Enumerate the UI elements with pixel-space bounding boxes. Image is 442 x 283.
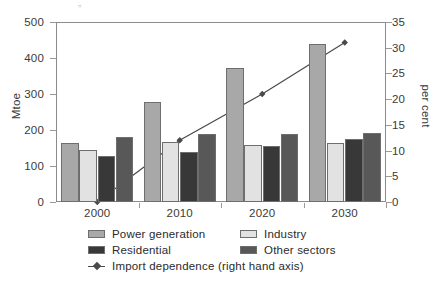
bar-residential-2030: [345, 139, 363, 202]
y-axis-left-title: Mtoe: [10, 76, 22, 136]
x-axis-tickmark: [139, 203, 140, 208]
legend-label: Industry: [264, 228, 307, 240]
y-axis-right-tick-label: 5: [392, 170, 399, 182]
y-axis-right-tickmark: [386, 202, 392, 203]
bar-industry-2020: [244, 145, 262, 202]
y-axis-right-tickmark: [386, 99, 392, 100]
y-axis-left-tick-label: 500: [24, 16, 44, 28]
y-axis-left-tick-label: 100: [24, 160, 44, 172]
y-axis-left-tick-label: 200: [24, 124, 44, 136]
y-axis-left-tickmark: [50, 202, 56, 203]
y-axis-right-tickmark: [386, 176, 392, 177]
y-axis-right-tickmark: [386, 22, 392, 23]
y-axis-right-tickmark: [386, 151, 392, 152]
bar-industry-2000: [79, 150, 97, 202]
y-axis-left-tick-label: 300: [24, 88, 44, 100]
y-axis-left-tickmark: [50, 94, 56, 95]
x-axis-tickmark: [386, 203, 387, 208]
bar-other-sectors-2010: [198, 134, 216, 202]
y-axis-right-tick-label: 10: [392, 145, 405, 157]
bar-other-sectors-2030: [363, 133, 381, 202]
x-axis-tick-label: 2010: [167, 207, 193, 219]
y-axis-right-tick-label: 25: [392, 67, 405, 79]
chart-legend: Power generationIndustryResidentialOther…: [88, 228, 388, 280]
bar-power-generation-2010: [144, 102, 162, 202]
y-axis-right-tickmark: [386, 48, 392, 49]
legend-line-marker-icon: [88, 262, 105, 270]
y-axis-right-tick-label: 0: [392, 196, 399, 208]
x-axis-tick-label: 2030: [332, 207, 358, 219]
legend-swatch-icon: [240, 230, 257, 238]
legend-swatch-icon: [88, 246, 105, 254]
top-marker-glyph: ▫: [78, 1, 81, 11]
legend-label: Residential: [112, 244, 171, 256]
x-axis-tickmark: [221, 203, 222, 208]
y-axis-right-tick-label: 15: [392, 119, 405, 131]
x-axis-tick-label: 2000: [84, 207, 110, 219]
y-axis-right-ticks: 05101520253035: [392, 22, 422, 202]
bar-power-generation-2000: [61, 143, 79, 202]
bar-residential-2000: [98, 156, 116, 202]
y-axis-left-tickmark: [50, 58, 56, 59]
legend-label: Power generation: [112, 228, 205, 240]
y-axis-left-tick-label: 400: [24, 52, 44, 64]
legend-label: Other sectors: [264, 244, 336, 256]
bar-power-generation-2030: [309, 44, 327, 202]
chart-figure: ▫ 0100200300400500 Mtoe 05101520253035 p…: [0, 0, 442, 283]
y-axis-right-tick-label: 30: [392, 42, 405, 54]
x-axis-tick-label: 2020: [249, 207, 275, 219]
bar-industry-2030: [327, 143, 345, 202]
legend-swatch-icon: [88, 230, 105, 238]
legend-label: Import dependence (right hand axis): [112, 260, 304, 272]
legend-entry-import-dependence-right-hand-axis[interactable]: Import dependence (right hand axis): [88, 260, 304, 272]
line-marker-2030: [342, 39, 348, 45]
y-axis-right-tickmark: [386, 73, 392, 74]
legend-entry-other-sectors[interactable]: Other sectors: [240, 244, 336, 256]
bar-other-sectors-2020: [281, 134, 299, 202]
y-axis-right-tick-label: 20: [392, 93, 405, 105]
legend-entry-industry[interactable]: Industry: [240, 228, 307, 240]
y-axis-left-tickmark: [50, 166, 56, 167]
line-marker-2020: [259, 91, 265, 97]
bar-residential-2010: [180, 152, 198, 202]
legend-entry-power-generation[interactable]: Power generation: [88, 228, 205, 240]
plot-area: [56, 22, 386, 202]
x-axis-ticks: 2000201020202030: [56, 203, 386, 225]
y-axis-left-tick-label: 0: [37, 196, 44, 208]
legend-entry-residential[interactable]: Residential: [88, 244, 171, 256]
bar-industry-2010: [162, 142, 180, 202]
bar-other-sectors-2000: [116, 137, 134, 202]
x-axis-tickmark: [304, 203, 305, 208]
y-axis-right-tickmark: [386, 125, 392, 126]
bar-residential-2020: [263, 146, 281, 202]
bar-power-generation-2020: [226, 68, 244, 202]
y-axis-right-tick-label: 35: [392, 16, 405, 28]
y-axis-left-tickmark: [50, 22, 56, 23]
legend-swatch-icon: [240, 246, 257, 254]
y-axis-right-title: per cent: [420, 76, 432, 136]
y-axis-left-tickmark: [50, 130, 56, 131]
